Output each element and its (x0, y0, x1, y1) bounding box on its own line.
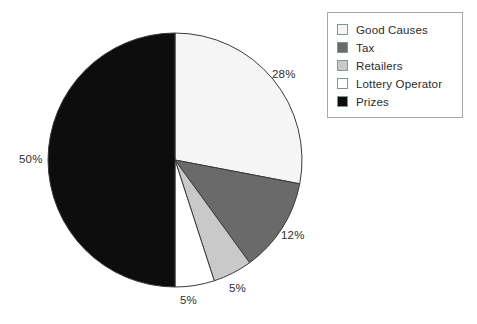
legend-swatch-icon (337, 24, 348, 35)
legend-item-retailers[interactable]: Retailers (337, 57, 453, 74)
legend-swatch-icon (337, 60, 348, 71)
legend-item-tax[interactable]: Tax (337, 39, 453, 56)
legend-swatch-icon (337, 96, 348, 107)
legend-item-lottery-operator[interactable]: Lottery Operator (337, 75, 453, 92)
legend-item-label: Prizes (356, 96, 389, 108)
pie-slice-good-causes[interactable] (175, 33, 302, 184)
pie-label-good-causes: 28% (272, 68, 296, 80)
legend-item-label: Good Causes (356, 24, 428, 36)
legend-item-prizes[interactable]: Prizes (337, 93, 453, 110)
legend-item-good-causes[interactable]: Good Causes (337, 21, 453, 38)
pie-slice-prizes[interactable] (48, 33, 175, 287)
legend-swatch-icon (337, 42, 348, 53)
pie-label-tax: 12% (281, 229, 305, 241)
legend-swatch-icon (337, 78, 348, 89)
pie-label-lottery-operator: 5% (180, 294, 197, 306)
pie-label-retailers: 5% (229, 282, 246, 294)
chart-page: 28% 12% 5% 5% 50% Good CausesTaxRetailer… (0, 0, 477, 324)
legend-item-label: Retailers (356, 60, 403, 72)
legend-item-label: Tax (356, 42, 374, 54)
pie-slices (48, 33, 302, 287)
chart-legend: Good CausesTaxRetailersLottery OperatorP… (327, 12, 463, 118)
legend-item-label: Lottery Operator (356, 78, 442, 90)
pie-label-prizes: 50% (19, 153, 43, 165)
